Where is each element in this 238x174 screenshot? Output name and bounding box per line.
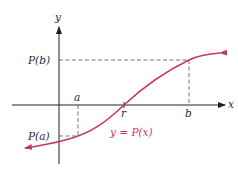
y-axis-label: y: [54, 11, 62, 23]
curve-label: y = P(x): [109, 126, 153, 138]
pb-label: P(b): [27, 54, 50, 66]
b-label: b: [185, 107, 192, 119]
pa-label: P(a): [27, 130, 50, 142]
function-graph: y x P(b) P(a) a b r y = P(x): [0, 0, 238, 174]
r-label: r: [121, 107, 127, 119]
a-label: a: [74, 91, 80, 103]
x-axis-label: x: [228, 98, 234, 110]
